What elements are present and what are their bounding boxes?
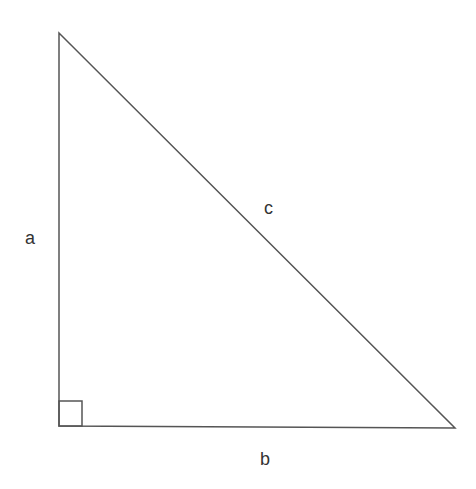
label-c: c bbox=[264, 198, 273, 218]
label-b: b bbox=[260, 449, 270, 469]
label-a: a bbox=[25, 228, 36, 248]
right-triangle-diagram: a b c bbox=[0, 0, 476, 489]
right-angle-marker bbox=[59, 401, 82, 426]
triangle bbox=[59, 33, 455, 428]
